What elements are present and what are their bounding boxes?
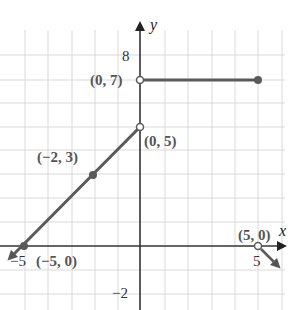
filled-point-neg5-0 [20, 242, 28, 250]
label-point-neg5-0: (−5, 0) [36, 253, 77, 270]
label-point-5-0: (5, 0) [238, 227, 271, 244]
right-line-segment [261, 249, 277, 265]
y-axis-label: y [148, 16, 158, 34]
open-point-0-5 [137, 124, 144, 131]
tick-x-5: 5 [253, 253, 261, 269]
tick-y-neg2: −2 [112, 285, 128, 301]
label-point-neg2-3: (−2, 3) [37, 149, 78, 166]
open-point-0-7 [137, 77, 144, 84]
filled-point-neg2-3 [89, 171, 97, 179]
label-point-0-5: (0, 5) [144, 133, 177, 150]
label-point-0-7: (0, 7) [90, 72, 123, 89]
piecewise-function-graph: y x 8 −2 −5 5 (0, 7) (0, 5) (−2, 3) (−5,… [0, 0, 290, 310]
x-axis-label: x [278, 222, 286, 239]
tick-y-8: 8 [122, 48, 130, 64]
filled-point-5-7 [254, 76, 262, 84]
open-point-5-0 [255, 243, 262, 250]
tick-x-neg5: −5 [10, 253, 26, 269]
